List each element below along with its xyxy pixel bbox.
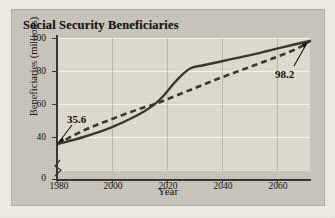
y-tick-80 [52, 71, 57, 72]
y-tick-60 [52, 104, 57, 105]
chart-title: Social Security Beneficiaries [23, 18, 179, 33]
y-tick-40 [52, 137, 57, 138]
gridline-2040 [222, 38, 223, 171]
x-tick-label-2020: 2020 [151, 181, 185, 191]
y-tick-label-100: 100 [20, 33, 46, 43]
gridline-100 [57, 38, 310, 39]
x-tick-label-1980: 1980 [42, 181, 76, 191]
y-tick-100 [52, 38, 57, 39]
x-tick-label-2040: 2040 [206, 181, 240, 191]
y-tick-label-60: 60 [20, 99, 46, 109]
gridline-40 [57, 137, 310, 138]
plot-area [57, 38, 310, 171]
x-tick-label-2060: 2060 [261, 181, 295, 191]
annotation-value-start: 35.6 [67, 113, 86, 125]
gridline-60 [57, 104, 310, 105]
y-tick-label-40: 40 [20, 132, 46, 142]
gridline-80 [57, 71, 310, 72]
gridline-2060 [277, 38, 278, 171]
chart-figure-panel: Social Security Beneficiaries Beneficiar… [11, 9, 325, 206]
x-tick-label-2000: 2000 [96, 181, 130, 191]
axis-break-icon [50, 159, 64, 177]
page-background: Social Security Beneficiaries Beneficiar… [0, 0, 335, 218]
gridline-2000 [112, 38, 113, 171]
annotation-value-end: 98.2 [275, 68, 294, 80]
gridline-2020 [167, 38, 168, 171]
y-tick-label-80: 80 [20, 66, 46, 76]
